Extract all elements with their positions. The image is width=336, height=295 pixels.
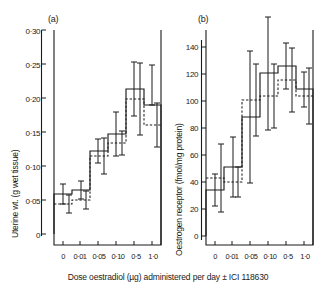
panel-b-plot — [166, 0, 336, 272]
figure-container: (a) Uterine wt. (g wet tissue) 0·30 0·25… — [0, 0, 336, 295]
panel-a: (a) Uterine wt. (g wet tissue) 0·30 0·25… — [0, 0, 170, 272]
panel-b: (b) Oestrogen receptor (fmol/mg protein)… — [166, 0, 336, 272]
figure-caption: Dose oestradiol (µg) administered per da… — [0, 272, 336, 282]
panel-a-plot — [0, 0, 170, 272]
